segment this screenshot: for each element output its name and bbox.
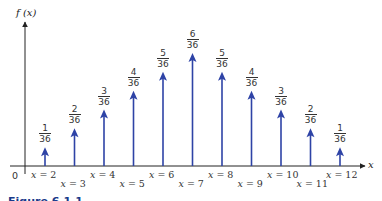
denominator: 36 xyxy=(183,40,203,50)
numerator: 1 xyxy=(330,123,350,133)
x-axis-label: x xyxy=(368,159,374,170)
numerator: 5 xyxy=(212,48,232,58)
x-tick-label: x = 7 xyxy=(179,178,204,189)
denominator: 36 xyxy=(35,134,55,144)
denominator: 36 xyxy=(153,59,173,69)
numerator: 2 xyxy=(301,104,321,114)
x-tick-label: x = 6 xyxy=(149,169,174,180)
y-axis-label: f (x) xyxy=(16,7,36,18)
value-label: 536 xyxy=(153,48,173,69)
value-label: 536 xyxy=(212,48,232,69)
value-label: 236 xyxy=(301,104,321,125)
denominator: 36 xyxy=(212,59,232,69)
value-label: 436 xyxy=(124,67,144,88)
denominator: 36 xyxy=(242,78,262,88)
x-tick-label: x = 2 xyxy=(31,169,56,180)
denominator: 36 xyxy=(94,97,114,107)
x-tick-label: x = 3 xyxy=(61,178,86,189)
value-label: 436 xyxy=(242,67,262,88)
figure-caption: Figure 6.1.1 xyxy=(8,195,83,201)
numerator: 3 xyxy=(94,86,114,96)
value-label: 636 xyxy=(183,29,203,50)
x-tick-label: x = 10 xyxy=(267,169,298,180)
denominator: 36 xyxy=(330,134,350,144)
numerator: 6 xyxy=(183,29,203,39)
x-tick-label: x = 4 xyxy=(90,169,115,180)
value-label: 336 xyxy=(94,86,114,107)
value-label: 136 xyxy=(330,123,350,144)
x-tick-label: x = 11 xyxy=(297,178,328,189)
value-label: 236 xyxy=(65,104,85,125)
numerator: 4 xyxy=(242,67,262,77)
numerator: 1 xyxy=(35,123,55,133)
denominator: 36 xyxy=(65,115,85,125)
numerator: 4 xyxy=(124,67,144,77)
x-tick-label: x = 12 xyxy=(326,169,357,180)
x-tick-label: x = 9 xyxy=(238,178,263,189)
numerator: 5 xyxy=(153,48,173,58)
denominator: 36 xyxy=(301,115,321,125)
value-label: 336 xyxy=(271,86,291,107)
numerator: 3 xyxy=(271,86,291,96)
stem-series xyxy=(41,53,344,166)
x-tick-label: x = 8 xyxy=(208,169,233,180)
denominator: 36 xyxy=(271,97,291,107)
x-tick-label: x = 5 xyxy=(120,178,145,189)
denominator: 36 xyxy=(124,78,144,88)
value-label: 136 xyxy=(35,123,55,144)
numerator: 2 xyxy=(65,104,85,114)
origin-label: 0 xyxy=(12,170,18,181)
